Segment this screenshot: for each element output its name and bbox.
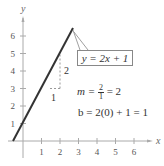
callout-pointer-2	[74, 32, 88, 50]
callout-pointer	[73, 30, 80, 50]
slope-lhs: m =	[77, 85, 95, 97]
y-ticks: 1 2 3 4 5 6	[11, 31, 27, 129]
svg-text:2: 2	[58, 147, 63, 157]
x-axis-arrow-icon	[147, 140, 153, 143]
svg-text:1: 1	[11, 119, 16, 129]
slope-fraction: 2 1	[98, 84, 104, 101]
svg-text:3: 3	[76, 147, 81, 157]
svg-text:3: 3	[11, 84, 16, 94]
svg-text:5: 5	[113, 147, 118, 157]
slope-denominator: 1	[98, 93, 104, 101]
y-axis-label: y	[20, 3, 26, 14]
svg-text:6: 6	[132, 147, 137, 157]
line-y-equals-2x-plus-1	[13, 28, 73, 141]
svg-text:4: 4	[95, 147, 100, 157]
slope-rhs: = 2	[107, 85, 121, 97]
intercept-calculation: b = 2(0) + 1 = 1	[78, 106, 148, 118]
svg-text:4: 4	[11, 66, 16, 76]
run-label: 1	[51, 92, 56, 103]
y-axis-arrow-icon	[22, 16, 25, 22]
slope-triangle	[50, 54, 60, 89]
svg-text:2: 2	[11, 101, 16, 111]
x-axis-label: x	[155, 135, 161, 146]
svg-text:1: 1	[39, 147, 44, 157]
line-chart: y x 1 2 3 4 5 6 1 2 3 4 5 6 1 2	[0, 0, 164, 166]
svg-text:5: 5	[11, 49, 16, 59]
equation-text: y = 2x + 1	[82, 52, 129, 64]
svg-text:6: 6	[11, 31, 16, 41]
slope-calculation: m = 2 1 = 2	[77, 84, 121, 101]
rise-label: 2	[64, 65, 69, 76]
equation-label-box: y = 2x + 1	[77, 50, 133, 66]
